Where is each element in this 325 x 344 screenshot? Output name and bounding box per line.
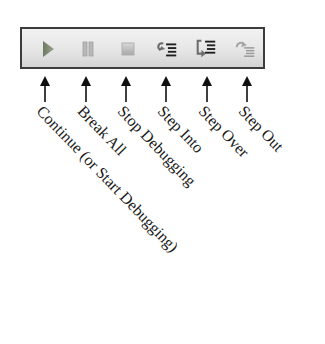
arrow-up-icon <box>121 76 131 102</box>
step-into-button[interactable] <box>155 37 179 61</box>
play-icon <box>41 40 55 58</box>
step-over-icon <box>194 37 218 61</box>
break-all-button[interactable] <box>76 37 100 61</box>
arrow-up-icon <box>202 76 212 102</box>
step-over-button[interactable] <box>194 37 218 61</box>
step-into-icon <box>155 39 179 59</box>
step-out-button[interactable] <box>234 37 258 61</box>
stop-icon <box>121 42 135 56</box>
pause-icon <box>81 40 95 58</box>
continue-button[interactable] <box>36 37 60 61</box>
debug-toolbar <box>20 27 265 69</box>
arrow-up-icon <box>81 76 91 102</box>
stop-debugging-button[interactable] <box>116 37 140 61</box>
arrow-up-icon <box>40 76 50 102</box>
arrow-up-icon <box>242 76 252 102</box>
step-out-icon <box>234 39 258 59</box>
arrow-up-icon <box>161 76 171 102</box>
